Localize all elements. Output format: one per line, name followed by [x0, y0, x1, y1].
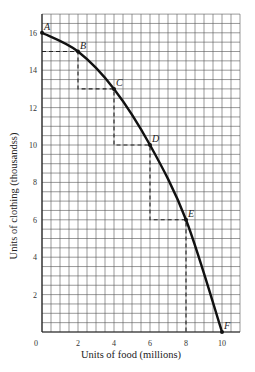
- point-label-e: E: [187, 208, 194, 219]
- y-tick-label: 12: [29, 104, 37, 113]
- grid-lines: [42, 14, 240, 332]
- point-label-b: B: [80, 40, 86, 51]
- y-tick-label: 14: [29, 66, 37, 75]
- x-tick-label: 8: [184, 339, 188, 348]
- y-tick-label: 16: [29, 29, 37, 38]
- x-tick-label: 10: [218, 339, 226, 348]
- y-tick-label: 8: [33, 178, 37, 187]
- x-axis-label: Units of food (millions): [81, 349, 182, 361]
- point-label-f: F: [223, 320, 231, 331]
- x-tick-label: 0: [34, 339, 38, 348]
- y-tick-label: 4: [33, 253, 37, 262]
- y-tick-label: 6: [33, 216, 37, 225]
- y-axis-label: Units of clothing (thousandss): [8, 132, 20, 259]
- x-axis-ticks: 0246810: [34, 339, 226, 348]
- x-tick-label: 2: [76, 339, 80, 348]
- ppf-chart: ABCDEF 0246810 246810121416 Units of foo…: [0, 0, 255, 372]
- y-tick-label: 2: [33, 291, 37, 300]
- x-tick-label: 6: [148, 339, 152, 348]
- point-label-c: C: [116, 77, 123, 88]
- point-label-d: D: [151, 133, 160, 144]
- y-tick-label: 10: [29, 141, 37, 150]
- y-axis-ticks: 246810121416: [29, 29, 37, 300]
- point-label-a: A: [43, 21, 51, 32]
- x-tick-label: 4: [112, 339, 116, 348]
- point-labels: ABCDEF: [40, 21, 231, 334]
